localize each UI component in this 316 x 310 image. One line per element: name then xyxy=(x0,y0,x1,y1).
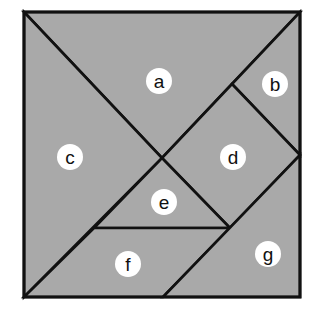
label-g: g xyxy=(255,241,281,267)
label-f: f xyxy=(115,251,141,277)
label-b: b xyxy=(262,71,288,97)
label-text: g xyxy=(263,244,274,265)
label-d: d xyxy=(220,144,246,170)
label-a: a xyxy=(146,68,172,94)
label-text: b xyxy=(270,74,281,95)
tangram-diagram: abcdefg xyxy=(0,0,316,310)
label-c: c xyxy=(57,144,83,170)
label-e: e xyxy=(151,189,177,215)
label-text: d xyxy=(228,147,239,168)
label-text: c xyxy=(65,147,75,168)
label-text: f xyxy=(125,254,131,275)
label-text: a xyxy=(154,71,165,92)
label-text: e xyxy=(159,192,170,213)
